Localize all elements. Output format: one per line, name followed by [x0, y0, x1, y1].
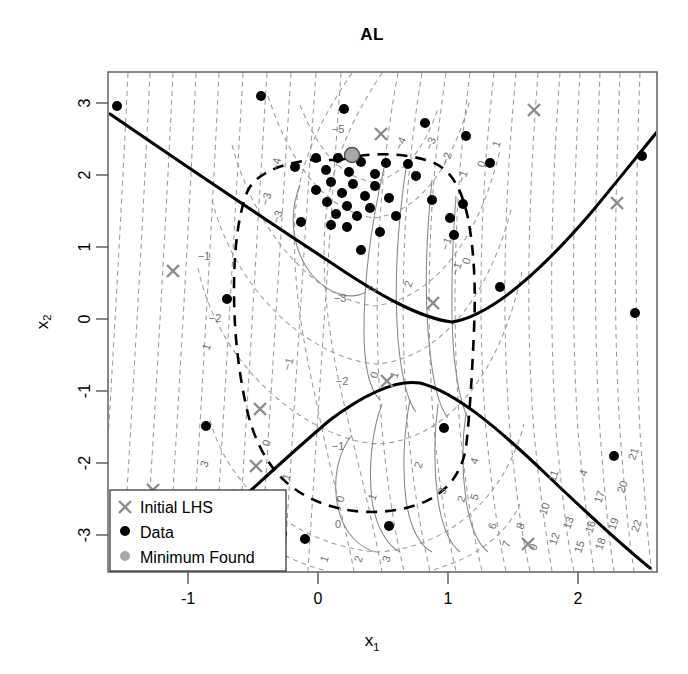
- data-point: [300, 534, 310, 544]
- data-point: [344, 167, 354, 177]
- data-point: [331, 209, 341, 219]
- legend-label-data: Data: [140, 524, 174, 541]
- data-point: [322, 197, 332, 207]
- contour-label-neg2b: −2: [336, 375, 349, 387]
- contour-label-neg5: −5: [332, 123, 345, 135]
- data-point: [360, 191, 370, 201]
- contour-label-neg4a: −4: [269, 157, 283, 171]
- data-point: [458, 199, 468, 209]
- data-point: [326, 220, 336, 230]
- contour-label-neg1d: −1: [198, 250, 211, 262]
- data-point: [485, 158, 495, 168]
- data-point: [256, 91, 266, 101]
- plot-svg: AL 3 2 1 0 -1 -2 -3 x2 -1: [0, 0, 688, 674]
- data-point: [381, 158, 391, 168]
- x-axis-label-sub: 1: [373, 641, 379, 653]
- data-point: [365, 203, 375, 213]
- contour-label-neg1e: −1: [332, 440, 345, 452]
- data-point: [201, 421, 211, 431]
- data-point: [112, 101, 122, 111]
- data-point: [461, 131, 471, 141]
- data-point: [384, 193, 394, 203]
- x-tick-label-2: 2: [574, 590, 583, 607]
- data-point: [311, 185, 321, 195]
- legend-item-minimum-found[interactable]: Minimum Found: [120, 549, 255, 566]
- data-point: [420, 118, 430, 128]
- data-point: [333, 153, 343, 163]
- data-point: [391, 211, 401, 221]
- legend-label-minimum-found: Minimum Found: [140, 549, 255, 566]
- data-point: [630, 308, 640, 318]
- x-tick-label-neg1: -1: [181, 590, 195, 607]
- y-tick-label-2: 2: [76, 170, 93, 179]
- data-point: [296, 217, 306, 227]
- data-point: [609, 451, 619, 461]
- y-tick-label-neg3: -3: [76, 528, 93, 542]
- data-point: [370, 169, 380, 179]
- data-point: [427, 195, 437, 205]
- y-axis-label-sub: 2: [41, 315, 53, 321]
- series-minimum-found: [345, 148, 360, 163]
- data-point: [637, 151, 647, 161]
- data-point: [445, 213, 455, 223]
- y-tick-label-neg2: -2: [76, 456, 93, 470]
- page-title: AL: [360, 25, 383, 44]
- filled-circle-icon: [120, 526, 130, 536]
- data-point: [290, 162, 300, 172]
- contour-label-neg2c: −2: [209, 312, 222, 324]
- y-tick-label-3: 3: [76, 98, 93, 107]
- data-point: [449, 230, 459, 240]
- data-point: [495, 282, 505, 292]
- contour-label-neg3d: −3: [334, 292, 347, 304]
- data-point: [339, 104, 349, 114]
- y-tick-label-neg1: -1: [76, 384, 93, 398]
- data-point: [342, 222, 352, 232]
- data-point: [352, 211, 362, 221]
- data-point: [321, 165, 331, 175]
- figure-root: AL 3 2 1 0 -1 -2 -3 x2 -1: [0, 0, 688, 674]
- contour-label-0f: 0: [335, 518, 341, 530]
- data-point: [342, 201, 352, 211]
- data-point: [222, 294, 232, 304]
- filled-circle-gray-icon: [120, 551, 130, 561]
- data-point: [311, 153, 321, 163]
- legend: Initial LHS Data Minimum Found: [110, 490, 286, 571]
- x-tick-label-1: 1: [444, 590, 453, 607]
- minimum-found-marker: [345, 148, 360, 163]
- legend-label-initial-lhs: Initial LHS: [140, 499, 213, 516]
- x-tick-label-0: 0: [314, 590, 323, 607]
- data-point: [337, 188, 347, 198]
- data-point: [356, 245, 366, 255]
- data-point: [348, 179, 358, 189]
- data-point: [375, 227, 385, 237]
- data-point: [384, 521, 394, 531]
- y-tick-label-0: 0: [76, 314, 93, 323]
- data-point: [411, 171, 421, 181]
- data-point: [326, 177, 336, 187]
- y-tick-label-1: 1: [76, 242, 93, 251]
- data-point: [370, 181, 380, 191]
- data-point: [403, 159, 413, 169]
- data-point: [439, 423, 449, 433]
